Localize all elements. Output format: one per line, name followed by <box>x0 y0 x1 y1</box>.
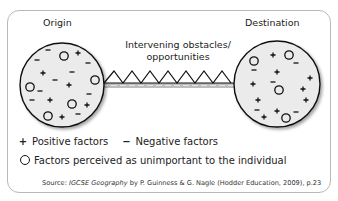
legend-row-1: +Positive factors −Negative factors <box>18 136 218 147</box>
positive-label: Positive factors <box>32 136 108 147</box>
destination-circle <box>234 41 320 127</box>
legend-row-2: Factors perceived as unimportant to the … <box>20 155 287 166</box>
connector <box>102 71 236 88</box>
plus-icon: + <box>18 136 28 147</box>
connector-label: Intervening obstacles/ opportunities <box>118 39 238 63</box>
source-prefix: Source: <box>42 179 69 187</box>
source-title: IGCSE Geography <box>69 179 128 187</box>
circle-icon <box>20 155 30 165</box>
source-suffix: by P. Guinness & G. Nagle (Hodder Educat… <box>128 179 322 187</box>
migration-diagram <box>0 0 338 201</box>
origin-label: Origin <box>43 17 72 28</box>
destination-label: Destination <box>245 17 300 28</box>
source-citation: Source: IGCSE Geography by P. Guinness &… <box>42 179 321 187</box>
origin-circle <box>20 43 104 127</box>
connector-label-line1: Intervening obstacles/ <box>118 39 238 51</box>
minus-icon: − <box>121 136 131 147</box>
connector-label-line2: opportunities <box>118 51 238 63</box>
unimportant-label: Factors perceived as unimportant to the … <box>34 155 287 166</box>
negative-label: Negative factors <box>135 136 218 147</box>
zigzag-obstacles <box>104 71 231 83</box>
